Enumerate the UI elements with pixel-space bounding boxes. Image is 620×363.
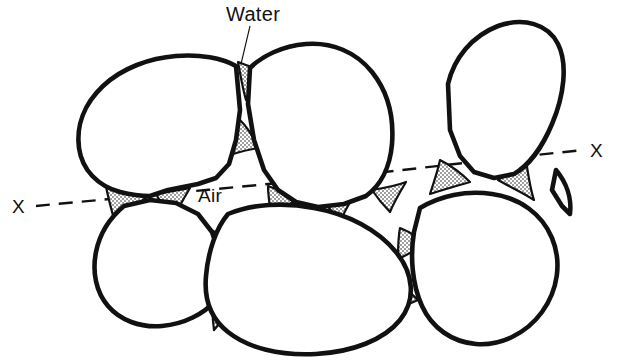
particle-upper-left xyxy=(78,55,240,196)
air-label: Air xyxy=(198,185,222,207)
water-label: Water xyxy=(226,3,280,26)
particle-right-middle xyxy=(552,170,570,214)
soil-particle-diagram xyxy=(0,0,620,363)
water-leader-line xyxy=(241,26,250,64)
figure-canvas: Water Air X X xyxy=(0,0,620,363)
particle-lower-left xyxy=(95,200,223,326)
section-label-x-left: X xyxy=(12,196,25,218)
particle-bottom-center xyxy=(206,205,411,355)
section-label-x-right: X xyxy=(590,140,603,162)
soil-particles-layer xyxy=(78,22,570,354)
particle-upper-middle xyxy=(248,44,392,207)
particle-bottom-right xyxy=(412,193,557,344)
